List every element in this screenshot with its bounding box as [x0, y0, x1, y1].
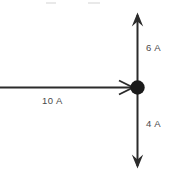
branch-label-down: 4 A: [146, 119, 161, 129]
branch-label-horizontal: 10 A: [42, 96, 63, 106]
junction-node-dot: [130, 80, 144, 94]
branch-label-up: 6 A: [146, 43, 161, 53]
junction-diagram: [0, 0, 182, 179]
figure-canvas: 6 A 10 A 4 A: [0, 0, 182, 179]
